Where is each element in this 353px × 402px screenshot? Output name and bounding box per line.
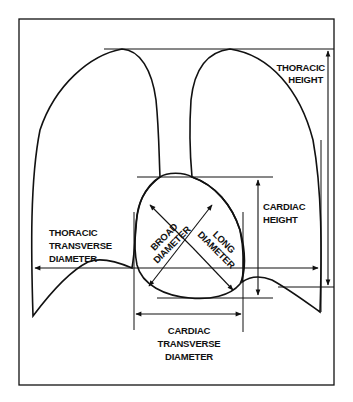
svg-text:CARDIAC: CARDIAC [168, 325, 211, 336]
svg-text:CARDIAC: CARDIAC [263, 201, 306, 212]
thoracic-transverse-label: THORACIC TRANSVERSE DIAMETER [49, 227, 112, 264]
long-diameter-label: LONG DIAMETER [195, 221, 245, 271]
svg-text:THORACIC: THORACIC [49, 227, 98, 238]
left-lung-outline [32, 49, 160, 316]
cardiac-height-label: CARDIAC HEIGHT [263, 201, 306, 225]
right-lung-outline [190, 49, 321, 312]
svg-text:TRANSVERSE: TRANSVERSE [158, 338, 221, 349]
svg-text:HEIGHT: HEIGHT [263, 214, 298, 225]
cardiothoracic-diagram: THORACIC HEIGHT CARDIAC HEIGHT THORACIC … [0, 0, 353, 402]
cardiac-transverse-label: CARDIAC TRANSVERSE DIAMETER [158, 325, 221, 362]
svg-text:TRANSVERSE: TRANSVERSE [49, 240, 112, 251]
svg-text:DIAMETER: DIAMETER [49, 253, 97, 264]
svg-text:DIAMETER: DIAMETER [165, 351, 213, 362]
svg-text:HEIGHT: HEIGHT [288, 74, 323, 85]
heart-outline [135, 173, 245, 298]
svg-text:THORACIC: THORACIC [276, 62, 325, 73]
